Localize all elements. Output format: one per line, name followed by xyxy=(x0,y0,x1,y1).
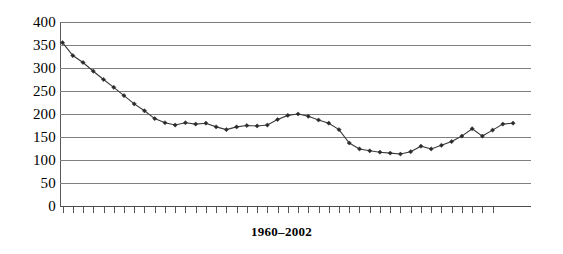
x-axis-tick xyxy=(73,207,74,213)
x-axis-tick xyxy=(329,207,330,213)
x-axis-tick xyxy=(411,207,412,213)
data-point-marker xyxy=(163,121,167,125)
y-axis-tick-label: 300 xyxy=(2,61,56,76)
data-point-marker xyxy=(398,152,402,156)
x-axis-tick xyxy=(339,207,340,213)
x-axis-tick xyxy=(431,207,432,213)
y-axis-tick-label: 50 xyxy=(2,176,56,191)
data-point-marker xyxy=(450,140,454,144)
x-axis-tick xyxy=(185,207,186,213)
x-axis-title: 1960–2002 xyxy=(0,224,563,240)
x-axis-tick xyxy=(216,207,217,213)
x-axis-tick xyxy=(288,207,289,213)
x-axis-tick xyxy=(359,207,360,213)
data-point-marker xyxy=(368,149,372,153)
data-point-marker xyxy=(265,123,269,127)
data-point-marker xyxy=(286,113,290,117)
data-point-marker xyxy=(419,144,423,148)
data-point-marker xyxy=(224,128,228,132)
data-point-marker xyxy=(296,112,300,116)
x-axis-tick xyxy=(165,207,166,213)
x-axis-tick xyxy=(421,207,422,213)
data-point-marker xyxy=(204,121,208,125)
x-axis-tick xyxy=(237,207,238,213)
data-point-marker xyxy=(245,123,249,127)
data-point-marker xyxy=(316,118,320,122)
y-axis-tick-label: 100 xyxy=(2,153,56,168)
data-point-marker xyxy=(511,121,515,125)
series-1-path xyxy=(63,43,514,154)
x-axis-tick xyxy=(247,207,248,213)
x-axis-tick xyxy=(390,207,391,213)
x-axis-tick xyxy=(267,207,268,213)
x-axis-tick xyxy=(441,207,442,213)
x-axis-tick xyxy=(257,207,258,213)
y-axis-tick-label: 400 xyxy=(2,15,56,30)
x-axis-tick xyxy=(319,207,320,213)
data-point-marker xyxy=(255,124,259,128)
y-axis-tick-labels: 400350300250200150100500 xyxy=(0,0,56,254)
series-1-line xyxy=(60,22,531,206)
data-point-marker xyxy=(194,122,198,126)
x-axis-tick xyxy=(370,207,371,213)
x-axis-tick xyxy=(472,207,473,213)
y-axis-tick-label: 150 xyxy=(2,130,56,145)
data-point-marker xyxy=(235,125,239,129)
y-axis-tick-label: 200 xyxy=(2,107,56,122)
data-point-marker xyxy=(388,151,392,155)
data-point-marker xyxy=(378,150,382,154)
data-point-marker xyxy=(306,114,310,118)
x-axis-tick xyxy=(63,207,64,213)
x-axis-tick xyxy=(400,207,401,213)
data-point-marker xyxy=(214,125,218,129)
y-axis-tick-label: 350 xyxy=(2,38,56,53)
x-axis-tick xyxy=(196,207,197,213)
data-point-marker xyxy=(183,121,187,125)
x-axis-tick xyxy=(134,207,135,213)
x-axis-tick xyxy=(155,207,156,213)
data-point-marker xyxy=(409,150,413,154)
x-axis-tick xyxy=(308,207,309,213)
x-axis-tick xyxy=(452,207,453,213)
x-axis-tick xyxy=(380,207,381,213)
x-axis-tick xyxy=(83,207,84,213)
data-point-marker xyxy=(429,147,433,151)
x-axis-tick xyxy=(206,207,207,213)
y-axis-tick-label: 0 xyxy=(2,199,56,214)
x-axis-tick xyxy=(104,207,105,213)
y-axis-tick-label: 250 xyxy=(2,84,56,99)
chart-figure: 400350300250200150100500 1960–2002 xyxy=(0,0,563,254)
x-axis-tick xyxy=(226,207,227,213)
data-point-marker xyxy=(275,117,279,121)
x-axis-tick xyxy=(114,207,115,213)
data-point-marker xyxy=(173,123,177,127)
x-axis-tick xyxy=(298,207,299,213)
x-axis-tick xyxy=(175,207,176,213)
x-axis-tick xyxy=(462,207,463,213)
x-axis-tick xyxy=(482,207,483,213)
x-axis-tick xyxy=(144,207,145,213)
x-axis-ticks xyxy=(60,207,531,214)
x-axis-tick xyxy=(124,207,125,213)
x-axis-tick xyxy=(278,207,279,213)
data-point-marker xyxy=(439,143,443,147)
plot-area xyxy=(60,22,531,206)
x-axis-tick xyxy=(349,207,350,213)
x-axis-tick xyxy=(93,207,94,213)
series-1-markers xyxy=(60,41,515,157)
x-axis-tick xyxy=(493,207,494,213)
